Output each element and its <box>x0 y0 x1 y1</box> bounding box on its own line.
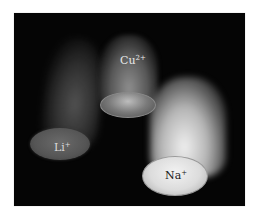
flame-test-photo: Cu2+ Li+ Na+ <box>14 13 245 206</box>
lithium-ion-label: Li+ <box>54 142 71 154</box>
copper-ion-label: Cu2+ <box>120 55 146 67</box>
sodium-ion-label: Na+ <box>165 170 187 182</box>
copper-dish <box>100 92 156 118</box>
